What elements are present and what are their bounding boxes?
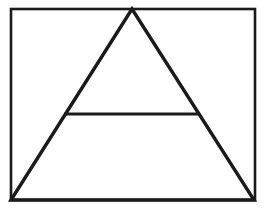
line-drawing: Triangle inscribed in rectangle with hor…	[0, 0, 273, 211]
outer-rectangle	[11, 9, 255, 200]
figure-canvas: Triangle inscribed in rectangle with hor…	[0, 0, 273, 211]
triangle	[11, 9, 254, 200]
